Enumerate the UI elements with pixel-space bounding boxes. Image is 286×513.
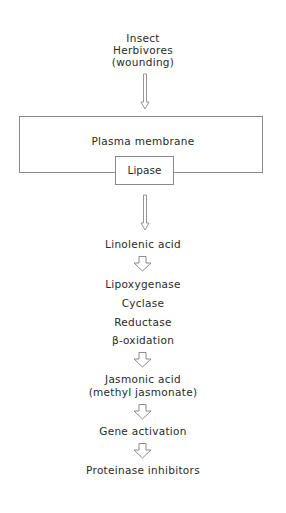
lipase-box: Lipase (115, 156, 174, 185)
block-down-arrow-icon (133, 443, 153, 459)
source-label-herbivores: Herbivores (0, 44, 286, 56)
block-down-arrow-icon (133, 404, 153, 420)
source-label-insect: Insect (0, 32, 286, 44)
enzyme-cyclase: Cyclase (0, 297, 286, 309)
block-down-arrow-icon (133, 352, 153, 368)
enzyme-reductase: Reductase (0, 316, 286, 328)
plasma-membrane-label: Plasma membrane (0, 135, 286, 147)
gene-activation-label: Gene activation (0, 425, 286, 437)
linolenic-acid-label: Linolenic acid (0, 238, 286, 250)
long-down-arrow-icon (140, 74, 150, 110)
block-down-arrow-icon (133, 256, 153, 272)
proteinase-inhibitors-label: Proteinase inhibitors (0, 464, 286, 476)
source-label-wounding: (wounding) (0, 56, 286, 68)
enzyme-lipoxygenase: Lipoxygenase (0, 278, 286, 290)
long-down-arrow-icon (140, 195, 150, 231)
enzyme-beta-oxidation: β-oxidation (0, 334, 286, 346)
jasmonic-acid-label: Jasmonic acid (0, 373, 286, 385)
methyl-jasmonate-label: (methyl jasmonate) (0, 386, 286, 398)
